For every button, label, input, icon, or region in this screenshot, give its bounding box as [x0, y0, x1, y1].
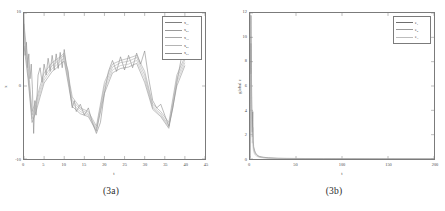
x-tick-label: 20 — [102, 163, 106, 167]
y-tick-label: 0 — [19, 84, 21, 88]
x-tick-label: 50 — [293, 163, 297, 167]
plot-area-3b: e1 e2 e3 — [249, 12, 435, 160]
legend-label: e3 — [415, 35, 418, 39]
legend-label: x51 — [184, 51, 189, 55]
legend-label: x41 — [184, 44, 189, 48]
series-line — [250, 43, 434, 158]
legend-swatch-line — [165, 30, 182, 31]
legend-label: x21 — [184, 28, 189, 32]
legend-swatch-line — [165, 53, 182, 54]
x-axis-title-3a: t — [113, 171, 114, 176]
x-tick-label: 200 — [432, 163, 439, 167]
legend-swatch-line — [396, 22, 413, 23]
y-tick-label: 2 — [245, 133, 247, 137]
x-axis-title-3b: t — [341, 171, 342, 176]
y-tick-label: 10 — [17, 10, 21, 14]
legend-item: x31 — [165, 34, 199, 41]
x-tick-label: 5 — [42, 163, 44, 167]
y-axis-title-3b: global e — [237, 67, 242, 107]
x-tick-label: 45 — [204, 163, 208, 167]
legend-swatch-line — [165, 22, 182, 23]
legend-label: e2 — [415, 28, 418, 32]
legend-item: e2 — [396, 26, 428, 33]
x-tick-label: 150 — [385, 163, 392, 167]
x-tick-label: 10 — [61, 163, 65, 167]
figure-root: x11 x21 x31 x41 x51 — [0, 0, 445, 211]
legend-item: e1 — [396, 19, 428, 26]
legend-item: x41 — [165, 42, 199, 49]
y-tick-label: -10 — [15, 158, 21, 162]
series-line — [24, 31, 185, 128]
legend-item: e3 — [396, 34, 428, 41]
legend-swatch-line — [165, 37, 182, 38]
x-tick-label: 15 — [82, 163, 86, 167]
x-tick-label: 30 — [143, 163, 147, 167]
legend-label: e1 — [415, 21, 418, 25]
x-tick-label: 35 — [163, 163, 167, 167]
figure-panel-3a: x11 x21 x31 x41 x51 — [0, 0, 222, 211]
x-tick-label: 40 — [183, 163, 187, 167]
legend-item: x21 — [165, 27, 199, 34]
legend-label: x31 — [184, 36, 189, 40]
series-line — [24, 39, 185, 130]
figure-panel-3b: e1 e2 e3 global e t (3b) 050100150200024… — [223, 0, 445, 211]
legend-3a: x11 x21 x31 x41 x51 — [162, 16, 202, 60]
legend-swatch-line — [165, 45, 182, 46]
y-axis-title-3a: x — [3, 85, 8, 87]
y-tick-label: 10 — [243, 34, 247, 38]
y-tick-label: 12 — [243, 10, 247, 14]
legend-item: x51 — [165, 50, 199, 57]
series-line — [250, 74, 434, 159]
legend-3b: e1 e2 e3 — [393, 16, 431, 44]
y-tick-label: 8 — [245, 59, 247, 63]
x-tick-label: 100 — [339, 163, 346, 167]
y-tick-label: 6 — [245, 84, 247, 88]
plot-area-3a: x11 x21 x31 x41 x51 — [23, 12, 206, 160]
legend-swatch-line — [396, 29, 413, 30]
x-tick-label: 25 — [122, 163, 126, 167]
y-tick-label: 0 — [245, 158, 247, 162]
panel-caption-3a: (3a) — [0, 186, 222, 196]
x-tick-label: 0 — [248, 163, 250, 167]
series-line — [24, 24, 185, 126]
panel-caption-3b: (3b) — [223, 186, 445, 196]
legend-label: x11 — [184, 21, 189, 25]
x-tick-label: 0 — [22, 163, 24, 167]
legend-item: x11 — [165, 19, 199, 26]
legend-swatch-line — [396, 37, 413, 38]
y-tick-label: 4 — [245, 108, 247, 112]
